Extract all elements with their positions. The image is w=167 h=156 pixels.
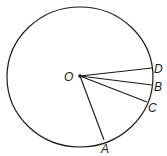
label-center-o: O <box>64 70 73 84</box>
radius-oa <box>80 76 104 140</box>
radius-od <box>80 68 152 76</box>
label-point-b: B <box>154 80 162 94</box>
label-point-c: C <box>148 101 157 115</box>
label-point-d: D <box>154 62 163 76</box>
circle-diagram: O D B C A <box>0 0 167 156</box>
center-point <box>78 74 82 78</box>
label-point-a: A <box>100 142 109 156</box>
